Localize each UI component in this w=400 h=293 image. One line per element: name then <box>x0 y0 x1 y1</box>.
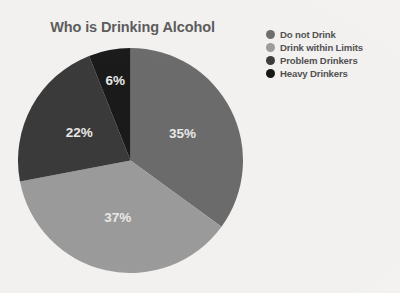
legend-swatch-icon <box>266 56 275 65</box>
chart-title: Who is Drinking Alcohol <box>30 19 235 35</box>
pie-chart-figure: Who is Drinking Alcohol 35%37%22%6% Do n… <box>0 0 400 293</box>
pie-slice-value-label: 37% <box>104 210 131 225</box>
legend-item-label: Heavy Drinkers <box>280 68 348 79</box>
legend-item-label: Drink within Limits <box>280 42 363 53</box>
legend-swatch-icon <box>266 30 275 39</box>
pie-svg: 35%37%22%6% <box>18 48 243 273</box>
legend-item[interactable]: Do not Drink <box>266 28 398 41</box>
legend-item[interactable]: Problem Drinkers <box>266 54 398 67</box>
legend-item-label: Do not Drink <box>280 29 336 40</box>
legend-item[interactable]: Heavy Drinkers <box>266 68 398 81</box>
pie-slices-group <box>18 48 243 273</box>
pie-slice-value-label: 22% <box>66 125 93 140</box>
legend-swatch-icon <box>266 69 275 78</box>
legend-item[interactable]: Drink within Limits <box>266 41 398 54</box>
legend-item-label: Problem Drinkers <box>280 55 358 66</box>
legend-swatch-icon <box>266 43 275 52</box>
legend: Do not DrinkDrink within LimitsProblem D… <box>266 28 398 81</box>
pie-slice-value-label: 35% <box>169 126 196 141</box>
pie-slice-value-label: 6% <box>106 73 126 88</box>
pie-plot-area: 35%37%22%6% <box>18 48 243 273</box>
